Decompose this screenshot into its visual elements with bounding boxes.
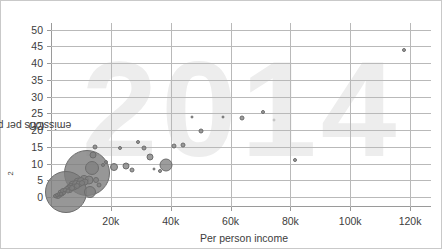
gridline-vertical xyxy=(231,23,232,207)
y-tick-mark xyxy=(47,80,51,81)
x-axis-line xyxy=(51,206,431,207)
x-tick-label: 60k xyxy=(222,215,239,227)
x-axis-title-text: Per person income xyxy=(200,232,288,244)
data-point-bubble[interactable] xyxy=(110,163,118,171)
gridline-horizontal xyxy=(51,113,431,114)
x-tick-mark xyxy=(350,207,351,211)
x-tick-label: 40k xyxy=(162,215,179,227)
data-point-bubble[interactable] xyxy=(171,143,176,148)
data-point-bubble[interactable] xyxy=(198,129,203,134)
gridline-horizontal xyxy=(51,147,431,148)
gridline-horizontal xyxy=(51,130,431,131)
data-point-bubble[interactable] xyxy=(153,167,156,170)
y-tick-mark xyxy=(47,30,51,31)
y-axis-title-sub: 2 xyxy=(7,171,16,175)
x-tick-label: 20k xyxy=(102,215,119,227)
data-point-bubble[interactable] xyxy=(136,140,140,144)
data-point-bubble[interactable] xyxy=(141,146,146,151)
gridline-horizontal xyxy=(51,30,431,31)
data-point-bubble[interactable] xyxy=(158,169,162,173)
gridline-horizontal xyxy=(51,63,431,64)
x-tick-mark xyxy=(231,207,232,211)
x-tick-label: 100k xyxy=(339,215,362,227)
x-tick-mark xyxy=(111,207,112,211)
gridline-vertical xyxy=(350,23,351,207)
gridline-vertical xyxy=(111,23,112,207)
gridline-horizontal xyxy=(51,197,431,198)
x-tick-label: 120k xyxy=(399,215,422,227)
plot-area xyxy=(51,23,431,207)
data-point-bubble[interactable] xyxy=(79,180,85,186)
data-point-bubble[interactable] xyxy=(118,146,122,150)
data-point-bubble[interactable] xyxy=(62,191,66,195)
x-tick-mark xyxy=(410,207,411,211)
data-point-bubble[interactable] xyxy=(190,115,193,118)
gridline-vertical xyxy=(410,23,411,207)
x-axis-title: Per person income xyxy=(1,232,442,244)
gridline-horizontal xyxy=(51,97,431,98)
y-tick-mark xyxy=(47,46,51,47)
data-point-bubble[interactable] xyxy=(261,110,265,114)
data-point-bubble[interactable] xyxy=(129,167,134,172)
x-tick-label: 80k xyxy=(282,215,299,227)
x-tick-mark xyxy=(290,207,291,211)
data-point-bubble[interactable] xyxy=(101,163,105,167)
data-point-bubble[interactable] xyxy=(272,119,275,122)
x-tick-mark xyxy=(171,207,172,211)
y-tick-mark xyxy=(47,164,51,165)
y-tick-mark xyxy=(47,97,51,98)
gridline-vertical xyxy=(290,23,291,207)
gridline-horizontal xyxy=(51,80,431,81)
data-point-bubble[interactable] xyxy=(90,152,97,159)
y-tick-mark xyxy=(47,147,51,148)
data-point-bubble[interactable] xyxy=(293,158,297,162)
chart-container: 2014 05101520253035404550 20k40k60k80k10… xyxy=(0,0,442,249)
y-tick-mark xyxy=(47,113,51,114)
gridline-horizontal xyxy=(51,46,431,47)
gridline-vertical xyxy=(171,23,172,207)
data-point-bubble[interactable] xyxy=(402,48,406,52)
y-axis-title: CO2 emissions per person xyxy=(0,1,16,249)
data-point-bubble[interactable] xyxy=(85,161,99,175)
data-point-bubble[interactable] xyxy=(146,154,153,161)
y-tick-mark xyxy=(47,63,51,64)
data-point-bubble[interactable] xyxy=(96,183,101,188)
y-axis-title-rest: emissions per person xyxy=(0,120,71,132)
data-point-bubble[interactable] xyxy=(104,160,108,164)
data-point-bubble[interactable] xyxy=(180,143,185,148)
data-point-bubble[interactable] xyxy=(92,144,97,149)
data-point-bubble[interactable] xyxy=(84,186,96,198)
data-point-bubble[interactable] xyxy=(240,116,245,121)
data-point-bubble[interactable] xyxy=(122,163,129,170)
data-point-bubble[interactable] xyxy=(222,115,225,118)
